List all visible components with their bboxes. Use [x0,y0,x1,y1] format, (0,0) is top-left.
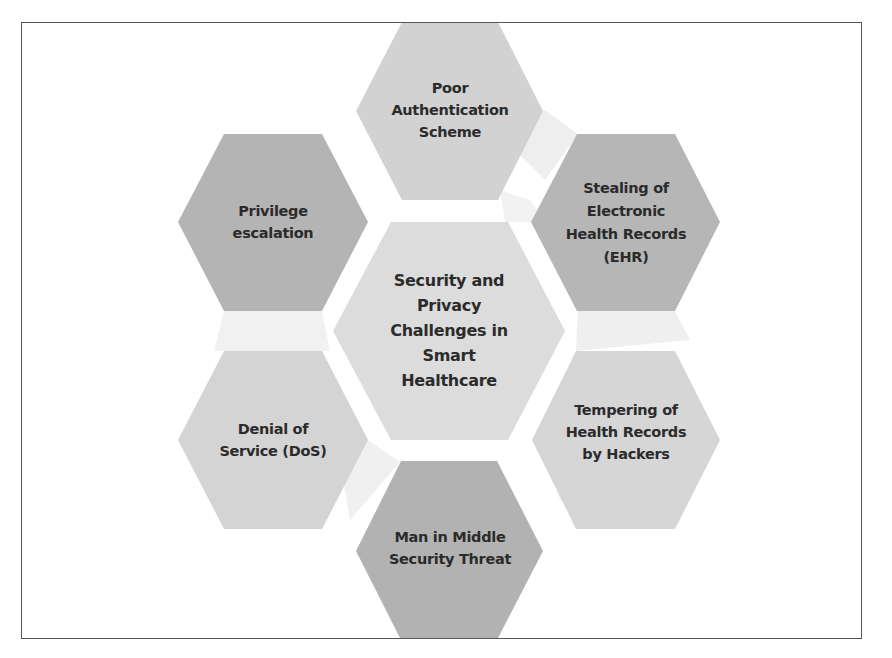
label-tempering-records: Tempering of Health Records by Hackers [532,392,720,472]
label-stealing-ehr: Stealing of Electronic Health Records (E… [531,168,721,278]
label-denial-of-service: Denial of Service (DoS) [178,410,368,470]
connector-right [576,311,690,351]
label-poor-authentication: Poor Authentication Scheme [356,60,544,160]
connector-left [214,311,330,351]
label-man-in-middle: Man in Middle Security Threat [356,518,544,578]
label-privilege-escalation: Privilege escalation [178,194,368,250]
label-center: Security and Privacy Challenges in Smart… [333,265,565,395]
